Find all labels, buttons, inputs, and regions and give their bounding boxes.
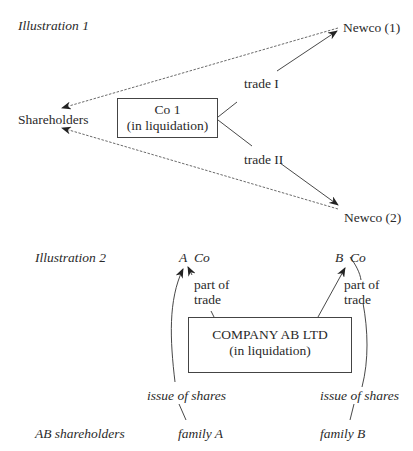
newco-1-label: Newco (1) (343, 20, 400, 35)
newco-2-label: Newco (2) (344, 210, 401, 225)
part-of-trade-left-line2: trade (194, 292, 230, 307)
a-co-letter: A (179, 250, 187, 265)
family-a-label: family A (178, 426, 223, 441)
b-co-letter: B (335, 250, 343, 265)
company-ab-name: COMPANY AB LTD (189, 327, 351, 343)
a-co-suffix: Co (194, 250, 210, 265)
part-of-trade-left-label: part of trade (194, 277, 230, 307)
illustration-2-title: Illustration 2 (35, 250, 106, 265)
dashed-arrow-newco2-shareholders (62, 128, 338, 209)
trade-2-label: trade II (244, 152, 283, 167)
issue-of-shares-left-label: issue of shares (147, 388, 226, 403)
company-ab-box: COMPANY AB LTD (in liquidation) (188, 317, 352, 373)
co1-box: Co 1 (in liquidation) (117, 98, 218, 138)
arrow-co1-newco1 (218, 31, 337, 117)
b-co-label: B Co (335, 250, 366, 265)
issue-of-shares-right-label: issue of shares (320, 388, 399, 403)
trade-1-label: trade I (244, 76, 279, 91)
part-of-trade-left-line1: part of (194, 277, 230, 292)
dashed-arrow-newco1-shareholders (62, 28, 338, 108)
shareholders-label: Shareholders (18, 112, 88, 127)
b-co-suffix: Co (350, 250, 366, 265)
part-of-trade-right-line1: part of (344, 277, 380, 292)
diagram-connectors (0, 0, 413, 451)
arrow-company-bco (318, 268, 345, 317)
part-of-trade-right-label: part of trade (344, 277, 380, 307)
part-of-trade-right-line2: trade (344, 292, 380, 307)
ab-shareholders-label: AB shareholders (35, 426, 125, 441)
family-b-label: family B (320, 426, 365, 441)
co1-status: (in liquidation) (118, 118, 217, 134)
company-ab-status: (in liquidation) (189, 343, 351, 359)
illustration-1-title: Illustration 1 (18, 18, 89, 33)
a-co-label: A Co (179, 250, 210, 265)
co1-name: Co 1 (118, 102, 217, 118)
